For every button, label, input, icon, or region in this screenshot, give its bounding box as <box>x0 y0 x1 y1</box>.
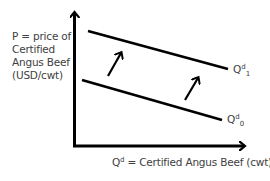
shift-arrow-right <box>185 78 198 100</box>
curve-1-label-sub: 1 <box>246 70 250 78</box>
y-axis-label-line-3: Angus Beef <box>12 56 71 69</box>
curve-0-label-sub: 0 <box>240 120 244 128</box>
demand-curve-1 <box>88 31 228 69</box>
demand-curve-1-label: Qd1 <box>233 63 250 75</box>
y-axis-label-line-4: (USD/cwt) <box>12 69 71 82</box>
demand-diagram <box>0 0 270 181</box>
demand-curve-0 <box>82 80 222 120</box>
y-axis-label-line-1: P = price of <box>12 30 71 43</box>
x-axis-label: Qd = Certified Angus Beef (cwt) <box>112 156 270 168</box>
x-axis-label-rest: = Certified Angus Beef (cwt) <box>124 156 270 168</box>
demand-curve-0-label: Qd0 <box>227 113 244 125</box>
y-axis-label-line-2: Certified <box>12 43 71 56</box>
x-axis-label-base: Q <box>112 156 120 168</box>
y-axis-label: P = price of Certified Angus Beef (USD/c… <box>12 30 71 82</box>
shift-arrow-left <box>108 53 121 76</box>
